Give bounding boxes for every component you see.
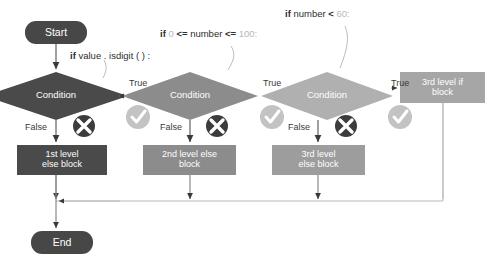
else-block-2-shape [143, 145, 236, 175]
edge-label-false-1: False [25, 122, 47, 132]
if-block-3-shape [400, 72, 485, 103]
code-annotation-3: if number < 60: [285, 8, 350, 19]
edge-label-false-2: False [160, 122, 182, 132]
flowchart-canvas: Start End Condition Condition Condition … [0, 0, 501, 267]
else-block-1-shape [17, 145, 107, 175]
code-token: if [160, 28, 166, 39]
code-token: if [285, 8, 291, 19]
code-annotation-2: if 0 <= number <= 100: [160, 28, 257, 39]
cross-icon-3 [335, 115, 357, 137]
cross-icon-1 [73, 115, 95, 137]
code-token: value . isdigit ( ) : [78, 50, 150, 61]
code-token: <= [176, 28, 187, 39]
edge-label-true-2: True [263, 78, 281, 88]
condition-1-shape [0, 72, 128, 120]
cross-icon-2 [206, 115, 228, 137]
start-node-shape [25, 21, 87, 44]
edge-label-true-1: True [129, 78, 147, 88]
code-annotation-1: if value . isdigit ( ) : [70, 50, 150, 61]
edge-label-true-3: True [391, 78, 409, 88]
check-icon-1 [126, 105, 150, 129]
code-token: if [70, 50, 76, 61]
leader-code-1 [103, 60, 106, 78]
code-token: < [328, 8, 334, 19]
code-token: 100: [239, 28, 258, 39]
code-token: 60: [337, 8, 350, 19]
code-token: 0 [168, 28, 173, 39]
leader-code-2 [228, 46, 234, 70]
code-token: number [293, 8, 325, 19]
leader-code-3 [340, 26, 347, 68]
code-token: number [190, 28, 222, 39]
end-node-shape [31, 231, 93, 254]
check-icon-2 [260, 105, 284, 129]
edge-label-false-3: False [288, 122, 310, 132]
flowchart-graphics [0, 0, 501, 267]
code-token: <= [225, 28, 236, 39]
else-block-3-shape [272, 145, 365, 175]
check-icon-3 [388, 105, 412, 129]
